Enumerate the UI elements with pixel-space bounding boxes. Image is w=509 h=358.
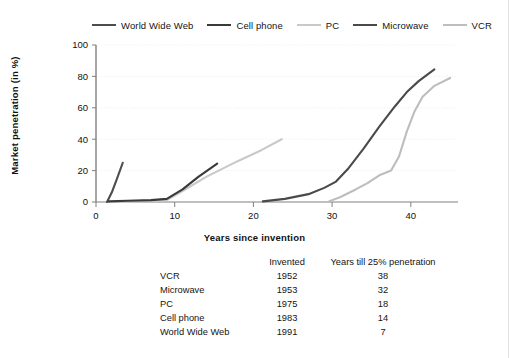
y-tick-label: 80 (77, 71, 88, 82)
table-cell-invented: 1983 (256, 312, 318, 326)
table-row: Cell phone198314 (160, 312, 448, 326)
table-cell-name: PC (160, 298, 256, 312)
legend-label: World Wide Web (121, 20, 193, 31)
table-cell-years: 18 (318, 298, 448, 312)
y-tick-label: 40 (77, 134, 88, 145)
legend-label: VCR (472, 20, 492, 31)
legend-line-icon (92, 24, 116, 26)
x-tick-label: 40 (405, 210, 416, 221)
y-tick-label: 0 (83, 196, 88, 207)
summary-table-wrapper: Invented Years till 25% penetration VCR1… (160, 256, 448, 341)
series-line-microwave (263, 69, 435, 201)
legend-item-world-wide-web[interactable]: World Wide Web (92, 20, 193, 31)
table-cell-name: Microwave (160, 284, 256, 298)
x-axis-title: Years since invention (0, 232, 509, 243)
x-tick-label: 10 (169, 210, 180, 221)
table-cell-invented: 1991 (256, 326, 318, 340)
legend-item-cell-phone[interactable]: Cell phone (207, 20, 282, 31)
table-cell-name: VCR (160, 270, 256, 284)
table-cell-years: 14 (318, 312, 448, 326)
table-row: PC197518 (160, 298, 448, 312)
table-header-invented: Invented (256, 256, 318, 270)
table-cell-name: World Wide Web (160, 326, 256, 340)
legend-line-icon (297, 24, 321, 26)
table-row: World Wide Web19917 (160, 326, 448, 340)
table-cell-invented: 1975 (256, 298, 318, 312)
legend-label: Cell phone (236, 20, 282, 31)
table-cell-years: 32 (318, 284, 448, 298)
x-tick-label: 0 (93, 210, 98, 221)
table-header-years: Years till 25% penetration (318, 256, 448, 270)
table-header-row: Invented Years till 25% penetration (160, 256, 448, 270)
legend-item-pc[interactable]: PC (297, 20, 339, 31)
series-line-world-wide-web (107, 163, 123, 202)
table-cell-invented: 1952 (256, 270, 318, 284)
table-body: VCR195238Microwave195332PC197518Cell pho… (160, 270, 448, 340)
legend-item-vcr[interactable]: VCR (443, 20, 492, 31)
table-cell-name: Cell phone (160, 312, 256, 326)
legend-line-icon (443, 24, 467, 26)
summary-table: Invented Years till 25% penetration VCR1… (160, 256, 448, 341)
y-tick-label: 100 (72, 39, 88, 50)
legend-line-icon (207, 24, 231, 26)
plot-area: 020406080100010203040 (0, 0, 509, 240)
legend-label: Microwave (382, 20, 428, 31)
legend-item-microwave[interactable]: Microwave (353, 20, 428, 31)
x-tick-label: 30 (327, 210, 338, 221)
y-tick-label: 20 (77, 165, 88, 176)
legend-line-icon (353, 24, 377, 26)
series-line-cell-phone (109, 164, 218, 202)
table-row: Microwave195332 (160, 284, 448, 298)
y-tick-label: 60 (77, 102, 88, 113)
table-cell-years: 7 (318, 326, 448, 340)
y-axis-title: Market penetration (in %) (9, 36, 20, 196)
table-cell-years: 38 (318, 270, 448, 284)
chart-legend: World Wide WebCell phonePCMicrowaveVCR (96, 16, 488, 34)
table-header-name (160, 256, 256, 270)
x-tick-label: 20 (248, 210, 259, 221)
chart-figure: World Wide WebCell phonePCMicrowaveVCR 0… (0, 0, 509, 358)
table-cell-invented: 1953 (256, 284, 318, 298)
legend-label: PC (326, 20, 339, 31)
table-row: VCR195238 (160, 270, 448, 284)
